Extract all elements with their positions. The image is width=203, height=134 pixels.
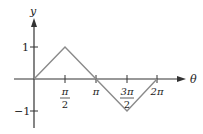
triangle-wave-graph: y θ 1 −1 π 2 π 3π 2 2π xyxy=(0,0,203,134)
y-tick-label-neg1: −1 xyxy=(14,105,30,118)
x-tick-label-pi: π xyxy=(92,86,100,97)
x-tick-label-3pi-half-num: 3π xyxy=(121,86,134,97)
x-tick-label-2pi: 2π xyxy=(150,86,164,97)
y-axis-label: y xyxy=(29,5,37,18)
x-tick-label-pi-half-den: 2 xyxy=(62,99,68,110)
x-tick-label-pi-half-num: π xyxy=(61,86,69,97)
y-axis-arrow-icon xyxy=(31,18,37,27)
x-axis-label: θ xyxy=(190,73,197,86)
x-axis-arrow-icon xyxy=(177,76,186,82)
y-tick-label-1: 1 xyxy=(22,41,29,54)
